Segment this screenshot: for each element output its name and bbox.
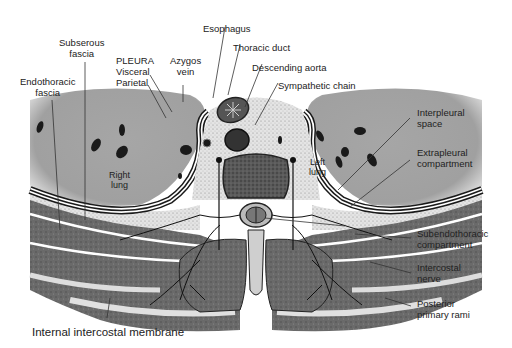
label-posterior-primary-rami: Posterior primary rami (417, 298, 470, 320)
label-sympathetic-chain: Sympathetic chain (278, 80, 356, 91)
label-esophagus: Esophagus (203, 23, 251, 34)
azygos-vein (180, 145, 192, 155)
label-left-lung: Left lung (309, 157, 326, 177)
label-intercostal-nerve: Intercostal nerve (417, 262, 461, 284)
sympathetic-ganglion-left (216, 157, 222, 163)
sympathetic-ganglion-right (290, 157, 296, 163)
label-internal-intercostal-membrane: Internal intercostal membrane (32, 326, 184, 339)
descending-aorta (225, 129, 249, 151)
label-thoracic-duct: Thoracic duct (233, 42, 290, 53)
thoracic-duct (203, 139, 211, 147)
vertebral-body (223, 154, 289, 198)
esophagus-folds (225, 102, 241, 118)
label-descending-aorta: Descending aorta (252, 62, 326, 73)
label-subendothoracic-compartment: Subendothoracic compartment (417, 228, 488, 250)
label-extrapleural-compartment: Extrapleural compartment (417, 147, 472, 169)
label-interpleural-space: Interpleural space (417, 107, 465, 129)
label-pleura: PLEURA Visceral Parietal (116, 55, 154, 88)
spinous-process (248, 230, 264, 295)
label-azygos-vein: Azygos vein (170, 55, 201, 77)
label-subserous-fascia: Subserous fascia (59, 37, 104, 59)
label-endothoracic-fascia: Endothoracic fascia (20, 76, 75, 98)
label-right-lung: Right lung (109, 170, 130, 190)
